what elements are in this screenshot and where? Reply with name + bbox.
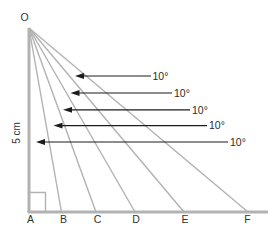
angle-annotation-2: 10°	[71, 87, 190, 99]
angle-label-1: 10°	[153, 70, 169, 82]
arrow-head-icon-1	[75, 73, 84, 79]
arrow-head-icon-4	[54, 123, 63, 129]
angle-annotation-1: 10°	[75, 70, 168, 82]
angle-label-5: 10°	[230, 136, 246, 148]
point-label-F: F	[244, 213, 250, 225]
point-label-D: D	[132, 213, 140, 225]
angle-label-4: 10°	[209, 119, 225, 131]
angle-diagram: O 5 cm A B C D E F 10° 10°	[0, 0, 276, 237]
arrow-head-icon-3	[63, 107, 72, 113]
apex-label-O: O	[20, 11, 28, 23]
baseline-label-group: A B C D E F	[27, 213, 251, 225]
point-label-E: E	[181, 213, 188, 225]
angle-label-2: 10°	[174, 87, 190, 99]
point-label-C: C	[94, 213, 102, 225]
angle-annotation-group: 10° 10° 10° 10° 10°	[36, 70, 246, 148]
ray-OE	[29, 28, 184, 212]
length-label-5cm: 5 cm	[11, 122, 22, 144]
angle-annotation-5: 10°	[36, 136, 246, 148]
arrow-head-icon-2	[71, 90, 80, 96]
arrow-head-icon-5	[36, 139, 45, 145]
angle-annotation-3: 10°	[63, 104, 208, 116]
point-label-B: B	[60, 213, 67, 225]
diagram-canvas: O 5 cm A B C D E F 10° 10°	[0, 0, 276, 237]
point-label-A: A	[27, 213, 34, 225]
right-angle-icon	[30, 193, 46, 212]
angle-label-3: 10°	[192, 104, 208, 116]
